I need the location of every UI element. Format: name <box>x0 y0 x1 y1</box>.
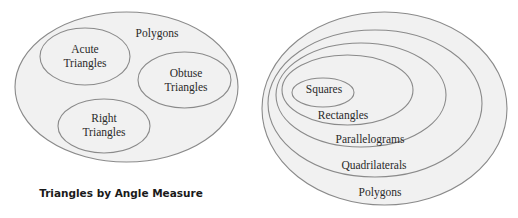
obtuse-triangles-set <box>138 52 231 108</box>
polygons-label-left: Polygons <box>136 27 179 40</box>
rectangles-label: Rectangles <box>318 109 369 122</box>
obtuse-label-line2: Triangles <box>164 81 208 94</box>
right-label-line1: Right <box>91 112 117 125</box>
quadrilaterals-label: Quadrilaterals <box>341 159 407 171</box>
quadrilaterals-hierarchy-diagram: Polygons Quadrilaterals Parallelograms R… <box>262 12 507 205</box>
acute-label-line1: Acute <box>71 43 98 55</box>
right-label-line2: Triangles <box>82 126 126 139</box>
squares-label: Squares <box>306 83 343 96</box>
venn-diagrams: Polygons Acute Triangles Obtuse Triangle… <box>0 0 518 218</box>
acute-label-line2: Triangles <box>63 57 107 70</box>
obtuse-label-line1: Obtuse <box>170 67 203 79</box>
triangles-by-angle-diagram: Polygons Acute Triangles Obtuse Triangle… <box>15 12 238 199</box>
left-diagram-title: Triangles by Angle Measure <box>39 187 203 199</box>
parallelograms-label: Parallelograms <box>336 133 406 146</box>
polygons-label-right: Polygons <box>359 186 402 199</box>
